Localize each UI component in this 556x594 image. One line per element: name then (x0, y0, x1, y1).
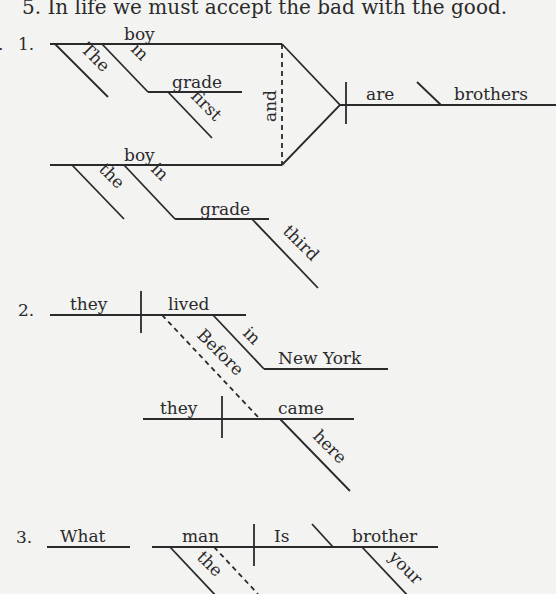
word-prep-object: grade (200, 199, 250, 219)
word-complement: brother (352, 526, 418, 546)
word-verb: lived (168, 294, 210, 314)
word-clause-subject: they (160, 398, 198, 418)
word-subject: they (70, 294, 108, 314)
word-modifier: your (384, 546, 427, 589)
word-verb: are (366, 84, 394, 104)
sentence-diagrams: 5. In life we must accept the bad with t… (0, 0, 556, 594)
diagram-number: 1. (18, 34, 34, 54)
word-subordinator: Before (193, 325, 248, 380)
word-prep-object: New York (278, 348, 362, 368)
word-conjunction: and (260, 90, 280, 122)
word-adverb: here (309, 426, 351, 468)
word-subject: man (182, 526, 219, 546)
diagram-2: 2. they lived in New York Before they ca… (18, 291, 388, 491)
word-complement: brothers (454, 84, 528, 104)
word-verb: Is (274, 526, 289, 546)
word-prep: in (239, 323, 265, 349)
complement-divider (417, 82, 441, 105)
word-article: the (193, 547, 227, 581)
header-text: 5. In life we must accept the bad with t… (22, 0, 507, 19)
diagram-3: 3. What man Is brother the your (16, 524, 438, 594)
compound-fork (282, 44, 340, 165)
word-modifier: third (279, 221, 323, 265)
word-interrogative: What (60, 526, 106, 546)
diagram-1: . 1. boy The in grade first and boy the … (0, 24, 556, 288)
word-subject: boy (124, 145, 155, 165)
diagram-number: . (0, 34, 3, 54)
word-clause-verb: came (278, 398, 324, 418)
complement-divider (312, 524, 333, 547)
diagram-number: 2. (18, 300, 34, 320)
diagram-number: 3. (16, 527, 32, 547)
